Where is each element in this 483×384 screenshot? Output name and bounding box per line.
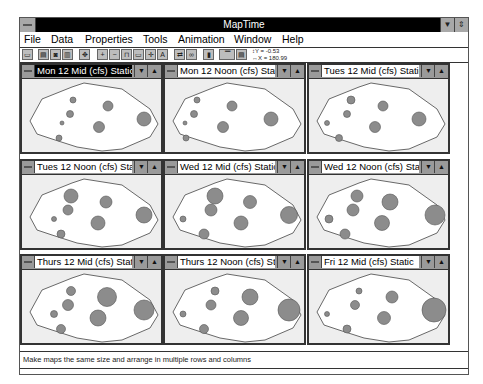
station-symbol[interactable] [67,111,74,118]
station-symbol[interactable] [205,204,217,216]
frame-icon[interactable]: ⊓ [121,49,132,60]
station-symbol[interactable] [60,121,64,125]
map-panel[interactable]: Fri 12 Mid (cfs) Static▼▲ [307,254,450,345]
station-symbol[interactable] [206,300,216,310]
system-menu-icon[interactable] [309,65,322,77]
station-symbol[interactable] [325,312,330,317]
menu-window[interactable]: Window [234,33,271,45]
station-symbol[interactable] [244,196,257,209]
station-symbol[interactable] [325,215,333,223]
station-symbol[interactable] [356,288,362,294]
title-bar[interactable]: MapTime ▼ ⇕ [20,18,468,32]
station-symbol[interactable] [180,216,186,222]
station-symbol[interactable] [325,121,330,126]
station-symbol[interactable] [90,310,106,326]
station-symbol[interactable] [343,325,351,333]
station-symbol[interactable] [412,112,426,126]
station-symbol[interactable] [370,122,381,133]
station-symbol[interactable] [67,287,76,296]
map-canvas[interactable] [309,175,448,248]
open-map-icon[interactable]: ▭ [22,49,33,60]
minimize-arrow-icon[interactable]: ▼ [440,18,454,32]
minimize-arrow-icon[interactable]: ▼ [421,256,435,268]
system-menu-icon[interactable] [309,161,322,173]
stack-icon[interactable]: ▤ [236,49,247,60]
move-icon[interactable]: ✛ [145,49,156,60]
map-panel[interactable]: Thurs 12 Mid (cfs) Static▼▲ [20,254,163,345]
station-symbol[interactable] [64,189,78,203]
map-title-bar[interactable]: Wed 12 Noon (cfs) Static▼▲ [309,161,448,175]
station-symbol[interactable] [70,97,76,103]
menu-data[interactable]: Data [51,33,73,45]
maximize-arrow-icon[interactable]: ▲ [147,256,161,268]
station-symbol[interactable] [137,112,151,126]
rectangle-icon[interactable]: ▭ [133,49,144,60]
map-canvas[interactable] [309,79,448,152]
station-symbol[interactable] [134,300,154,320]
maximize-arrow-icon[interactable]: ▲ [290,256,304,268]
station-symbol[interactable] [344,111,351,118]
map-title-bar[interactable]: Tues 12 Mid (cfs) Static▼▲ [309,65,448,79]
map-title-bar[interactable]: Wed 12 Mid (cfs) Static▼▲ [165,161,304,175]
station-symbol[interactable] [207,188,223,204]
table-icon[interactable]: ▤ [38,49,49,60]
minimize-arrow-icon[interactable]: ▼ [421,161,435,173]
maximize-arrow-icon[interactable]: ▲ [434,161,448,173]
station-symbol[interactable] [218,122,229,133]
minimize-arrow-icon[interactable]: ▼ [277,161,291,173]
legend-icon[interactable]: ▥ [62,49,73,60]
symbol-icon[interactable]: ∞ [186,49,197,60]
station-symbol[interactable] [57,325,66,334]
station-symbol[interactable] [91,216,105,230]
station-symbol[interactable] [194,97,200,103]
station-symbol[interactable] [56,135,62,141]
station-symbol[interactable] [52,217,57,222]
station-symbol[interactable] [340,229,350,239]
chart-icon[interactable]: ◙ [50,49,61,60]
station-symbol[interactable] [180,311,186,317]
maximize-arrow-icon[interactable]: ▲ [290,161,304,173]
station-symbol[interactable] [234,311,249,326]
station-symbol[interactable] [63,300,74,311]
map-panel[interactable]: Wed 12 Mid (cfs) Static▼▲ [163,159,306,250]
station-symbol[interactable] [278,299,300,321]
maximize-arrow-icon[interactable]: ▲ [147,65,161,77]
map-panel[interactable]: Tues 12 Mid (cfs) Static▼▲ [307,63,450,154]
station-symbol[interactable] [183,121,187,125]
station-symbol[interactable] [183,135,189,141]
system-menu-icon[interactable] [165,65,178,77]
system-menu-icon[interactable] [22,65,35,77]
system-menu-icon[interactable] [309,256,322,268]
restore-arrows-icon[interactable]: ⇕ [454,18,468,32]
map-panel[interactable]: Mon 12 Mid (cfs) Static▼▲ [20,63,163,154]
map-title-bar[interactable]: Thurs 12 Mid (cfs) Static▼▲ [22,256,161,270]
pan-icon[interactable]: ✥ [79,49,90,60]
minimize-arrow-icon[interactable]: ▼ [421,65,435,77]
map-panel[interactable]: Mon 12 Noon (cfs) Static▼▲ [163,63,306,154]
system-menu-icon[interactable] [165,256,178,268]
map-title-bar[interactable]: Tues 12 Noon (cfs) Static▼▲ [22,161,161,175]
text-icon[interactable]: A [157,49,168,60]
station-symbol[interactable] [351,301,360,310]
maximize-arrow-icon[interactable]: ▲ [290,65,304,77]
station-symbol[interactable] [51,311,58,318]
maximize-arrow-icon[interactable]: ▲ [434,256,448,268]
map-canvas[interactable] [22,270,161,343]
menu-tools[interactable]: Tools [143,33,168,45]
minimize-arrow-icon[interactable]: ▼ [134,256,148,268]
station-symbol[interactable] [378,312,391,325]
station-symbol[interactable] [375,216,390,231]
station-symbol[interactable] [136,207,152,223]
station-symbol[interactable] [199,229,209,239]
map-canvas[interactable] [22,175,161,248]
station-symbol[interactable] [351,190,363,202]
map-title-bar[interactable]: Mon 12 Noon (cfs) Static▼▲ [165,65,304,79]
minimize-arrow-icon[interactable]: ▼ [277,256,291,268]
station-symbol[interactable] [386,291,398,303]
station-symbol[interactable] [281,207,298,224]
station-symbol[interactable] [63,205,73,215]
station-symbol[interactable] [191,111,198,118]
station-symbol[interactable] [264,112,278,126]
map-title-bar[interactable]: Mon 12 Mid (cfs) Static▼▲ [22,65,161,79]
station-symbol[interactable] [242,289,258,305]
